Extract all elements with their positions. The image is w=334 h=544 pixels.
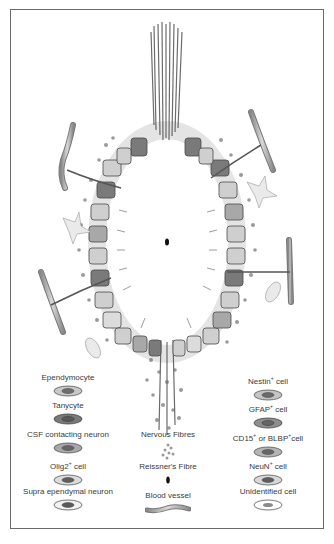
legend-item-blood-vessel: Blood vessel [113,491,223,515]
legend-item-supra-ependymal-neuron: Supra ependymal neuron [13,487,123,511]
legend-label: Reissner's Fibre [113,462,223,472]
legend-label: Nestin+ cell [213,373,323,387]
nestin-cell-icon [253,389,283,401]
legend-item-csf-contacting-neuron: CSF contacting neuron [13,430,123,454]
neun-cell-icon [253,474,283,486]
cilia [117,210,217,328]
reissners-fibre [165,239,169,246]
supra-ependymal-neuron-icon [53,499,83,511]
olig2-cell-icon [53,474,83,486]
legend-label: Olig2+ cell [13,458,123,472]
legend-item-nestin-cell: Nestin+ cell [213,373,323,401]
legend-item-unidentified-cell: Unidentified cell [213,487,323,511]
csf-neuron-cell-icon [53,442,83,454]
legend-label: GFAP+ cell [213,401,323,415]
tanycyte-cell-icon [53,413,83,425]
blood-vessel-icon [145,503,191,515]
figure-frame: Ependymocyte Tanycyte CSF contacting neu… [10,9,324,529]
nervous-fibres-icon [158,442,178,462]
unidentified-cell-icon [253,499,283,511]
legend-label: Tanycyte [13,401,123,411]
legend-label: Ependymocyte [13,373,123,383]
reissners-fibre-icon [163,474,173,486]
legend-label: CD15+ or BLBP+cell [213,430,323,444]
legend-item-tanycyte: Tanycyte [13,401,123,425]
legend-item-gfap-cell: GFAP+ cell [213,401,323,429]
ependymocyte-cell-icon [53,385,83,397]
cd15-blbp-cell-icon [253,446,283,458]
legend-item-nervous-fibres: Nervous Fibres [113,430,223,462]
legend-label: CSF contacting neuron [13,430,123,440]
legend-label: NeuN+ cell [213,458,323,472]
gfap-cell-icon [253,417,283,429]
legend-item-reissners-fibre: Reissner's Fibre [113,462,223,486]
legend-item-neun-cell: NeuN+ cell [213,458,323,486]
legend-item-ependymocyte: Ependymocyte [13,373,123,397]
legend-item-olig2-cell: Olig2+ cell [13,458,123,486]
legend-label: Nervous Fibres [113,430,223,440]
legend-item-cd15-blbp-cell: CD15+ or BLBP+cell [213,430,323,458]
legend-label: Unidentified cell [213,487,323,497]
legend-label: Supra ependymal neuron [13,487,123,497]
legend-label: Blood vessel [113,491,223,501]
